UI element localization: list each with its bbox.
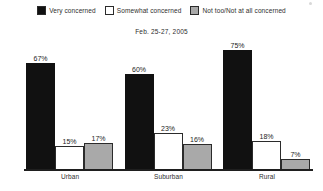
bar-slot-rural-somewhat: 18% bbox=[252, 42, 281, 170]
bar-value-rural-very: 75% bbox=[230, 41, 244, 50]
bar-slot-suburban-nottoo: 16% bbox=[183, 42, 212, 170]
x-axis-label-urban: Urban bbox=[26, 172, 114, 182]
legend-swatch-icon-not-too-concerned bbox=[190, 6, 199, 15]
x-axis-labels: Urban Suburban Rural bbox=[24, 172, 313, 182]
bar-urban-very-concerned: 67% bbox=[26, 63, 55, 170]
bar-suburban-not-too-concerned: 16% bbox=[183, 144, 212, 170]
x-axis-label-suburban: Suburban bbox=[125, 172, 213, 182]
bar-slot-suburban-somewhat: 23% bbox=[154, 42, 183, 170]
bar-suburban-somewhat-concerned: 23% bbox=[154, 133, 183, 170]
legend-label-not-too-concerned: Not too/Not at all concerned bbox=[202, 7, 285, 15]
bar-value-suburban-somewhat: 23% bbox=[161, 124, 175, 133]
bar-slot-urban-somewhat: 15% bbox=[55, 42, 84, 170]
bar-slot-urban-very: 67% bbox=[26, 42, 55, 170]
bar-value-rural-somewhat: 18% bbox=[259, 132, 273, 141]
bar-slot-suburban-very: 60% bbox=[125, 42, 154, 170]
bar-slot-urban-nottoo: 17% bbox=[84, 42, 113, 170]
bar-rural-very-concerned: 75% bbox=[223, 50, 252, 170]
legend-label-somewhat-concerned: Somewhat concerned bbox=[117, 7, 182, 15]
bar-rural-somewhat-concerned: 18% bbox=[252, 141, 281, 170]
chart-legend: Very concerned Somewhat concerned Not to… bbox=[0, 6, 323, 15]
bar-value-urban-very: 67% bbox=[33, 54, 47, 63]
bar-value-urban-nottoo: 17% bbox=[91, 134, 105, 143]
bar-slot-rural-nottoo: 7% bbox=[281, 42, 310, 170]
x-axis-label-rural: Rural bbox=[223, 172, 311, 182]
bar-value-rural-nottoo: 7% bbox=[290, 150, 300, 159]
bar-urban-somewhat-concerned: 15% bbox=[55, 146, 84, 170]
legend-swatch-icon-very-concerned bbox=[37, 6, 46, 15]
legend-swatch-icon-somewhat-concerned bbox=[105, 6, 114, 15]
bar-suburban-very-concerned: 60% bbox=[125, 74, 154, 170]
bar-groups: 67% 15% 17% 60% bbox=[24, 42, 313, 170]
bar-value-urban-somewhat: 15% bbox=[62, 137, 76, 146]
legend-item-not-too-concerned: Not too/Not at all concerned bbox=[190, 6, 285, 15]
legend-item-very-concerned: Very concerned bbox=[37, 6, 96, 15]
legend-label-very-concerned: Very concerned bbox=[49, 7, 96, 15]
bar-chart: Very concerned Somewhat concerned Not to… bbox=[0, 0, 323, 191]
bar-group-urban: 67% 15% 17% bbox=[26, 42, 114, 170]
legend-item-somewhat-concerned: Somewhat concerned bbox=[105, 6, 182, 15]
bar-value-suburban-very: 60% bbox=[132, 65, 146, 74]
bar-group-suburban: 60% 23% 16% bbox=[125, 42, 213, 170]
scan-artifact-speck bbox=[309, 2, 312, 5]
bar-urban-not-too-concerned: 17% bbox=[84, 143, 113, 170]
plot-area: 67% 15% 17% 60% bbox=[24, 42, 313, 170]
x-axis-baseline bbox=[24, 169, 313, 171]
bar-slot-rural-very: 75% bbox=[223, 42, 252, 170]
chart-subtitle: Feb. 25-27, 2005 bbox=[0, 27, 323, 36]
bar-value-suburban-nottoo: 16% bbox=[190, 135, 204, 144]
bar-group-rural: 75% 18% 7% bbox=[223, 42, 311, 170]
